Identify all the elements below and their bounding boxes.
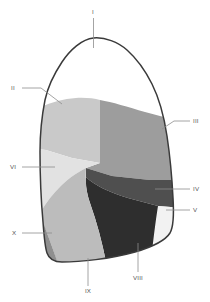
label-IX: IX <box>85 287 91 294</box>
segment-fills <box>30 30 186 272</box>
lung-diagram-svg: I II III IV V VI VIII IX X <box>0 0 210 302</box>
label-X: X <box>12 229 16 236</box>
label-V: V <box>193 206 198 213</box>
label-II: II <box>11 84 15 91</box>
label-I: I <box>92 8 94 15</box>
lung-segment-diagram: I II III IV V VI VIII IX X <box>0 0 210 302</box>
label-IV: IV <box>193 185 200 192</box>
label-VIII: VIII <box>133 274 143 281</box>
label-III: III <box>193 117 199 124</box>
label-VI: VI <box>10 163 16 170</box>
